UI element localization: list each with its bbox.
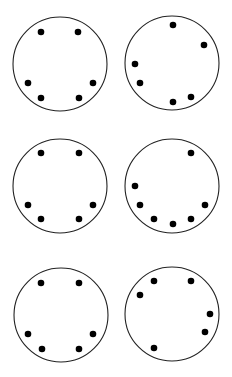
dot	[25, 80, 32, 87]
dot	[76, 95, 83, 102]
dot	[38, 150, 45, 157]
dot	[137, 292, 144, 299]
outline-circle	[125, 139, 219, 233]
dot	[76, 346, 83, 353]
dot	[76, 150, 83, 157]
dot	[188, 278, 195, 285]
dot	[90, 80, 97, 87]
dot	[38, 95, 45, 102]
dot	[132, 61, 139, 68]
dot	[137, 202, 144, 209]
dot	[76, 280, 83, 287]
dot	[170, 221, 177, 228]
outline-circle	[13, 17, 107, 111]
dot	[151, 345, 158, 352]
dot	[132, 183, 139, 190]
circle-group-4	[125, 139, 219, 233]
outline-circle	[14, 268, 108, 362]
dot	[76, 216, 83, 223]
dot	[170, 99, 177, 106]
dot	[75, 29, 82, 36]
dot	[90, 202, 97, 209]
dot	[137, 80, 144, 87]
outline-circle	[125, 267, 219, 361]
dot	[201, 42, 208, 49]
dot	[188, 94, 195, 101]
dot	[188, 216, 195, 223]
dot	[25, 331, 32, 338]
dot	[202, 329, 209, 336]
outline-circle	[125, 16, 219, 110]
dot	[151, 216, 158, 223]
dot	[90, 331, 97, 338]
dot	[188, 150, 195, 157]
dot	[207, 311, 214, 318]
circle-group-3	[13, 139, 107, 233]
dot	[170, 22, 177, 29]
circle-group-5	[14, 268, 108, 362]
outline-circle	[13, 139, 107, 233]
dot	[25, 202, 32, 209]
dot-circle-diagram	[0, 0, 232, 377]
circle-group-2	[125, 16, 219, 110]
circle-group-1	[13, 17, 107, 111]
dot	[38, 280, 45, 287]
dot	[202, 202, 209, 209]
dot	[151, 278, 158, 285]
circle-group-6	[125, 267, 219, 361]
dot	[39, 346, 46, 353]
dot	[38, 216, 45, 223]
dot	[38, 29, 45, 36]
